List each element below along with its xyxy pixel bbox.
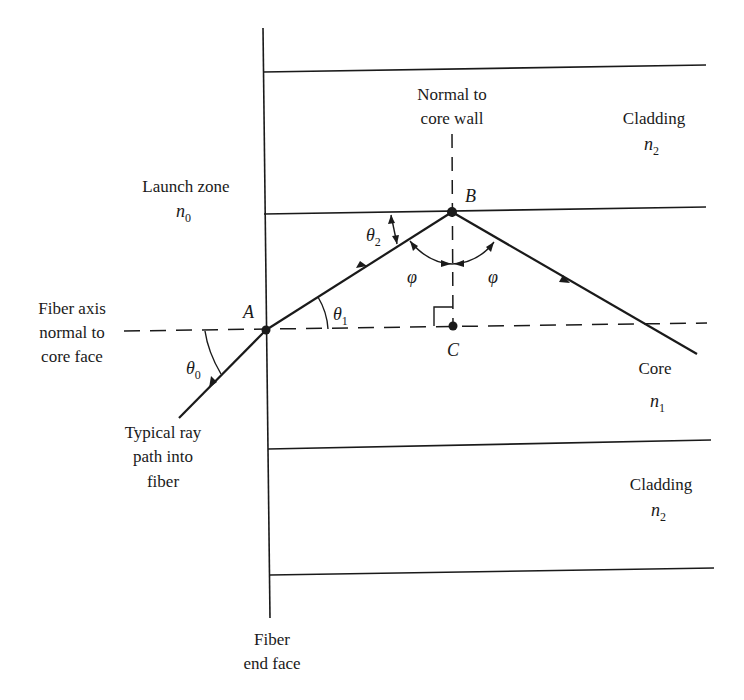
point-a-label: A [242, 302, 255, 322]
phi-center-left-arrow-icon [441, 260, 451, 267]
core-label: Core [638, 359, 671, 378]
refracted-ray [266, 212, 452, 330]
ray-label-line1: Typical ray [125, 423, 202, 442]
core-wall-top-line [264, 207, 706, 214]
point-a-dot [262, 326, 271, 335]
cladding-bottom-label: Cladding [630, 475, 693, 494]
phi-left-arc [410, 241, 452, 264]
ray-label-line3: fiber [147, 472, 179, 491]
core-wall-bottom-line [268, 440, 711, 449]
phi-center-right-arrow-icon [454, 260, 464, 267]
fiber-axis-label-line3: core face [41, 347, 103, 366]
incident-ray-arrow-icon [209, 376, 217, 388]
point-b-dot [447, 207, 457, 217]
normal-label-line1: Normal to [417, 85, 486, 104]
normal-label-line2: core wall [421, 109, 484, 128]
phi-right-label: φ [488, 267, 498, 287]
end-face-label-line2: end face [243, 654, 300, 673]
phi-left-arrow-icon [410, 241, 418, 251]
theta1-arc [318, 297, 328, 329]
fiber-axis-label-line1: Fiber axis [38, 299, 106, 318]
cladding-top-index: n2 [644, 134, 659, 158]
cladding-outer-bottom-line [270, 568, 714, 575]
launch-zone-index: n0 [176, 201, 191, 225]
end-face-label-line1: Fiber [254, 630, 290, 649]
cladding-top-label: Cladding [623, 109, 686, 128]
theta0-arc [205, 331, 221, 374]
phi-right-arc [452, 242, 494, 264]
ray-label-line2: path into [133, 447, 193, 466]
fiber-end-face-line [263, 28, 270, 618]
point-b-label: B [465, 186, 476, 206]
cladding-outer-top-line [263, 65, 706, 72]
launch-zone-label: Launch zone [142, 177, 229, 196]
point-c-dot [449, 322, 458, 331]
theta2-label: θ2 [366, 225, 381, 249]
theta2-arrow-up-icon [388, 215, 395, 224]
phi-left-label: φ [407, 267, 417, 287]
theta0-label: θ0 [186, 358, 201, 382]
point-c-label: C [447, 340, 460, 360]
fiber-axis-label-line2: normal to [39, 323, 105, 342]
normal-to-core-wall-dashed-line [452, 134, 453, 326]
core-index: n1 [650, 391, 665, 415]
theta1-label: θ1 [333, 304, 348, 328]
fiber-ray-diagram: Normal to core wall Cladding n2 Launch z… [0, 0, 744, 700]
cladding-bottom-index: n2 [651, 500, 666, 524]
fiber-axis-dashed-line [124, 323, 707, 331]
theta2-arrow-down-icon [392, 235, 399, 244]
